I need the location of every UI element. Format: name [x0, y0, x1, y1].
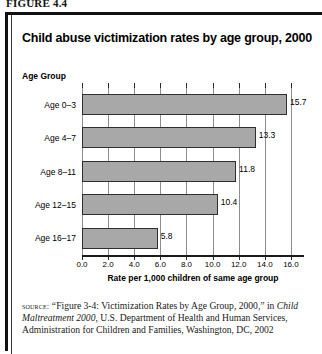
- bar: [82, 161, 236, 182]
- bar: [82, 194, 218, 215]
- category-label: Age 8–11: [16, 167, 76, 177]
- x-axis-tick-label: 2.0: [103, 260, 114, 269]
- bar-row: 5.8: [82, 222, 304, 255]
- x-axis-tick-label: 10.0: [205, 260, 221, 269]
- x-axis-tick-label: 12.0: [231, 260, 247, 269]
- x-axis-tick-label: 6.0: [155, 260, 166, 269]
- x-axis-tick-label: 14.0: [257, 260, 273, 269]
- bar-row: 15.7: [82, 88, 304, 121]
- bar-row: 13.3: [82, 121, 304, 154]
- source-note: source: “Figure 3-4: Victimization Rates…: [22, 300, 314, 337]
- figure-panel: Child abuse victimization rates by age g…: [5, 12, 322, 351]
- x-axis-label: Rate per 1,000 children of same age grou…: [82, 273, 304, 283]
- bar-value-label: 13.3: [259, 130, 276, 140]
- category-label: Age 4–7: [16, 133, 76, 143]
- x-axis-tick-label: 0.0: [76, 260, 87, 269]
- bar: [82, 228, 158, 249]
- bar-value-label: 11.8: [239, 164, 255, 174]
- x-axis-tick-label: 4.0: [129, 260, 140, 269]
- bar: [82, 127, 256, 148]
- x-axis-tick-label: 8.0: [181, 260, 192, 269]
- bar-value-label: 15.7: [290, 97, 307, 107]
- bar: [82, 94, 287, 115]
- bar-value-label: 10.4: [221, 197, 238, 207]
- figure-number-label: FIGURE 4.4: [6, 0, 67, 9]
- category-label: Age 16–17: [16, 233, 76, 243]
- x-axis-line: [82, 255, 304, 257]
- bar-row: 11.8: [82, 155, 304, 188]
- category-label: Age 0–3: [16, 100, 76, 110]
- bar-value-label: 5.8: [161, 231, 173, 241]
- category-label: Age 12–15: [16, 200, 76, 210]
- source-text-before: “Figure 3-4: Victimization Rates by Age …: [49, 300, 276, 311]
- source-kicker: source:: [22, 301, 49, 311]
- bar-row: 10.4: [82, 188, 304, 221]
- x-axis-tick-label: 16.0: [283, 260, 299, 269]
